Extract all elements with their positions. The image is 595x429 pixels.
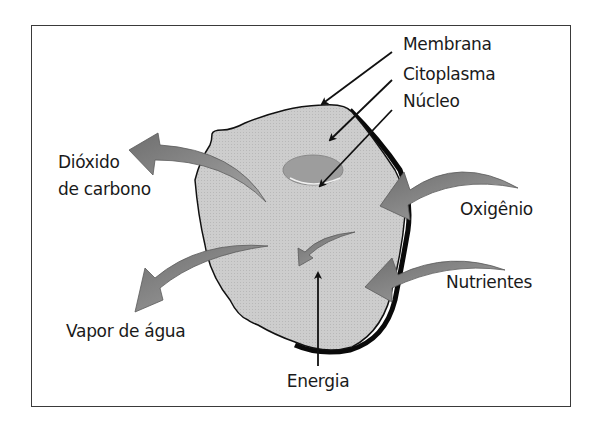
membrane-pointer xyxy=(322,52,392,104)
label-nucleo: Núcleo xyxy=(403,90,460,112)
label-dioxido-line1: Dióxido xyxy=(58,151,120,173)
label-vapor: Vapor de água xyxy=(66,320,185,342)
cell-body xyxy=(195,105,405,350)
label-energia-line1: Energia xyxy=(268,370,368,392)
label-citoplasma: Citoplasma xyxy=(403,63,495,85)
label-oxigenio: Oxigênio xyxy=(460,198,533,220)
label-membrana: Membrana xyxy=(403,33,492,55)
cell xyxy=(195,105,409,352)
label-dioxido-line2: de carbono xyxy=(58,178,151,200)
label-nutrientes: Nutrientes xyxy=(446,271,532,293)
